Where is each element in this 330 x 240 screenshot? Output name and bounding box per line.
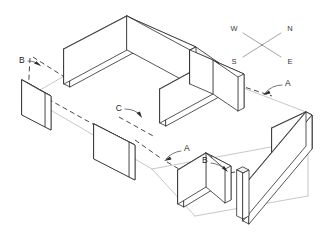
callout-label: B [19,55,25,65]
dashed-line-b-upper [33,57,66,78]
callout-label: A [285,78,291,88]
dashed-line-c-opening [119,117,155,137]
wall-front-left-standalone [94,124,135,180]
compass-center-dot [261,44,263,46]
isometric-wall-plan-svg: W N S E B C A A [0,0,330,240]
compass-label-south: S [231,57,236,66]
callout-label: C [116,103,122,113]
wall-back-face-right [206,153,225,203]
wall-back-left-long [64,16,133,87]
compass-label-east: E [287,57,292,66]
wall-front-face [243,170,249,219]
wall-back-face [64,16,127,84]
callout-leader-line [166,151,181,159]
wall-center-return [213,60,244,111]
wall-end-cap-right [225,166,231,203]
wall-end-cap [238,74,244,111]
compass-label-north: N [287,24,292,33]
compass-label-west: W [230,24,238,33]
wall-front-right-panel [237,167,249,219]
isometric-drawing-canvas: W N S E B C A A [0,0,330,240]
wall-left-standalone [22,80,51,130]
wall-back-face [94,124,129,177]
wall-back-face [127,16,190,84]
compass-rose: W N S E [230,24,292,66]
callout-label: A [184,143,190,153]
dashed-line-lower-left [135,140,162,159]
callout-a-lower-center: A [164,143,190,161]
callout-a-right: A [263,78,291,95]
wall-end-cap-lower [45,93,51,130]
wall-end-cap-lower [129,142,135,180]
wall-back-face [22,80,45,127]
wall-back-right-return [127,16,196,84]
wall-side-face [237,170,243,219]
callout-label: B [202,155,208,165]
callout-c-center: C [116,103,142,118]
